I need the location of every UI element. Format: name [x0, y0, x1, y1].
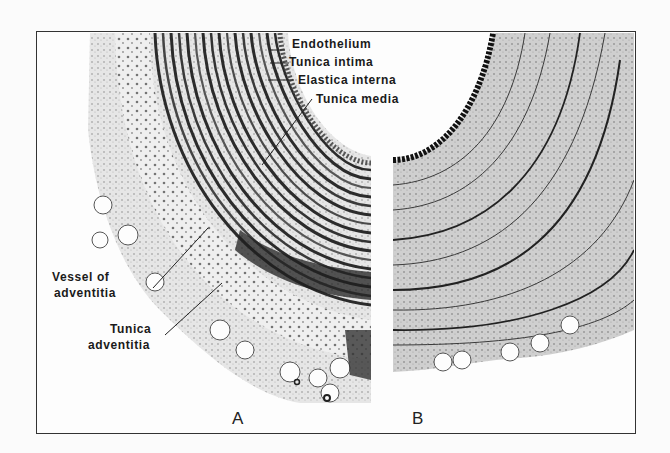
panel-label-b: B	[412, 409, 423, 429]
label-tunica-adventitia-line1: Tunica	[110, 323, 151, 336]
label-tunica-media: Tunica media	[316, 93, 399, 106]
label-endothelium: Endothelium	[292, 38, 371, 51]
label-vessel-of-adventitia-line2: adventitia	[54, 287, 116, 300]
label-tunica-adventitia-line2: adventitia	[88, 339, 150, 352]
panel-b-tissue	[393, 33, 634, 372]
label-vessel-of-adventitia-line1: Vessel of	[52, 271, 109, 284]
label-elastica-interna: Elastica interna	[298, 74, 396, 87]
panel-label-a: A	[232, 409, 243, 429]
label-tunica-intima: Tunica intima	[289, 56, 373, 69]
